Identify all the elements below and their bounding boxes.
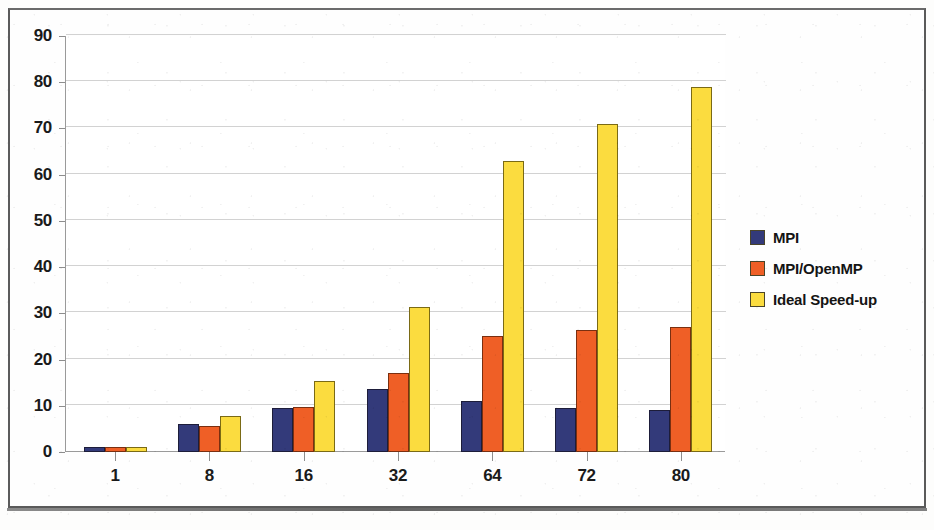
bar [199,426,220,452]
bar-chart: 0102030405060708090 181632647280 MPIMPI/… [0,0,934,530]
bar-group-80 [649,36,712,452]
chart-page: 0102030405060708090 181632647280 MPIMPI/… [0,0,934,530]
x-tick-label-1: 1 [85,467,145,484]
bar [649,410,670,452]
x-tick-label-64: 64 [462,467,522,484]
legend-item: MPI/OpenMP [750,253,920,284]
legend-item-label: MPI/OpenMP [773,260,863,277]
y-tick-label-0: 0 [8,443,52,460]
bar [367,389,388,452]
legend-item-label: Ideal Speed-up [773,291,877,308]
y-tick-label-20: 20 [8,351,52,368]
bar [178,424,199,452]
bar [293,407,314,452]
bar [84,447,105,452]
x-tick-label-80: 80 [651,467,711,484]
y-tick-mark-0 [59,452,65,453]
x-tick-label-8: 8 [179,467,239,484]
x-tick-mark-8 [209,452,210,461]
gridline-90 [66,34,726,35]
bar-group-72 [555,36,618,452]
y-tick-label-50: 50 [8,212,52,229]
chart-legend: MPIMPI/OpenMPIdeal Speed-up [750,222,920,315]
bar [555,408,576,452]
bar-group-1 [84,36,147,452]
legend-item: MPI [750,222,920,253]
bar [503,161,524,452]
x-tick-mark-80 [681,452,682,461]
bar-group-32 [367,36,430,452]
y-tick-label-70: 70 [8,119,52,136]
bar [670,327,691,452]
x-tick-mark-16 [304,452,305,461]
bar-groups [66,36,725,452]
bar [314,381,335,452]
y-tick-label-80: 80 [8,73,52,90]
bar [691,87,712,452]
y-tick-label-10: 10 [8,397,52,414]
bar [126,447,147,452]
bar [220,416,241,452]
y-tick-label-40: 40 [8,258,52,275]
bar [482,336,503,452]
bar [597,124,618,452]
bar [388,373,409,453]
legend-item: Ideal Speed-up [750,284,920,315]
bar-group-16 [272,36,335,452]
x-tick-label-16: 16 [274,467,334,484]
y-tick-label-90: 90 [8,27,52,44]
x-tick-mark-72 [587,452,588,461]
bar-group-64 [461,36,524,452]
bar [461,401,482,452]
bar-group-8 [178,36,241,452]
legend-item-label: MPI [773,229,799,246]
legend-swatch-icon [750,261,765,276]
bar [409,307,430,452]
y-tick-label-60: 60 [8,166,52,183]
x-tick-mark-64 [492,452,493,461]
bar [576,330,597,452]
x-tick-label-72: 72 [557,467,617,484]
legend-swatch-icon [750,230,765,245]
x-tick-mark-1 [115,452,116,461]
y-tick-label-30: 30 [8,304,52,321]
x-tick-mark-32 [398,452,399,461]
x-tick-label-32: 32 [368,467,428,484]
legend-swatch-icon [750,292,765,307]
bar [272,408,293,452]
